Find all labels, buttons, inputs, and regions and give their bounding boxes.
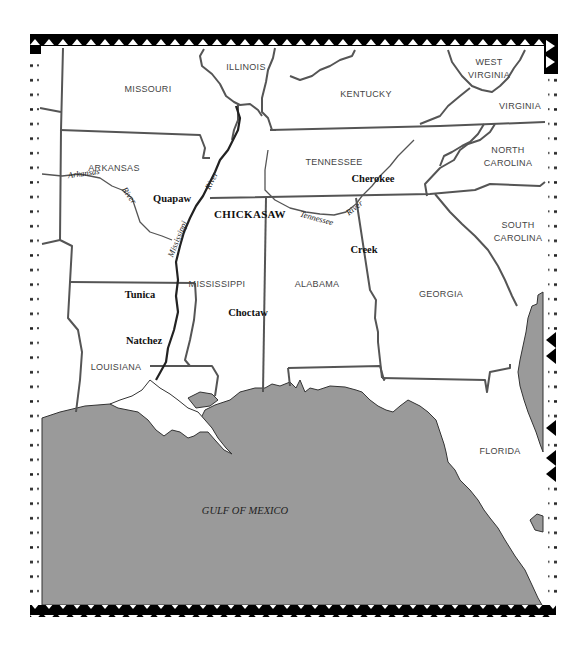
label-missouri: MISSOURI <box>125 84 172 94</box>
map-canvas: MISSOURI ILLINOIS KENTUCKY WEST VIRGINIA… <box>0 0 586 650</box>
label-natchez: Natchez <box>126 335 162 346</box>
label-florida: FLORIDA <box>479 446 520 456</box>
gulf-water <box>42 292 543 605</box>
label-georgia: GEORGIA <box>419 289 463 299</box>
label-mississippi-river-2: River <box>202 170 220 192</box>
label-tunica: Tunica <box>125 289 156 300</box>
label-north-carolina-1: NORTH <box>491 145 524 155</box>
bottom-border-band <box>30 605 556 617</box>
label-louisiana: LOUISIANA <box>91 362 142 372</box>
label-west-virginia-1: WEST <box>475 57 502 67</box>
label-south-carolina-1: SOUTH <box>502 220 535 230</box>
label-alabama: ALABAMA <box>295 279 340 289</box>
label-south-carolina-2: CAROLINA <box>494 233 542 243</box>
rivers <box>42 106 414 380</box>
label-north-carolina-2: CAROLINA <box>484 158 532 168</box>
label-tennessee-river-1: Tennessee <box>299 209 335 228</box>
state-borders <box>40 48 545 412</box>
label-arkansas-river-2: River <box>120 184 140 206</box>
label-west-virginia-2: VIRGINIA <box>468 70 510 80</box>
historical-map: MISSOURI ILLINOIS KENTUCKY WEST VIRGINIA… <box>0 0 586 650</box>
label-illinois: ILLINOIS <box>226 62 265 72</box>
tribe-labels: Quapaw CHICKASAW Cherokee Creek Tunica C… <box>125 173 395 346</box>
label-cherokee: Cherokee <box>352 173 395 184</box>
label-virginia: VIRGINIA <box>499 101 541 111</box>
label-choctaw: Choctaw <box>228 307 268 318</box>
label-kentucky: KENTUCKY <box>340 89 391 99</box>
label-arkansas-river-1: Arkansas <box>66 166 100 181</box>
left-dotted-border <box>28 56 42 604</box>
label-tennessee: TENNESSEE <box>305 157 362 167</box>
label-gulf-of-mexico: GULF OF MEXICO <box>202 505 289 516</box>
top-border-band <box>30 34 556 46</box>
label-creek: Creek <box>350 244 377 255</box>
label-chickasaw: CHICKASAW <box>214 208 286 220</box>
label-mississippi: MISSISSIPPI <box>189 279 246 289</box>
label-tennessee-river-2: River <box>343 198 365 218</box>
label-quapaw: Quapaw <box>153 193 191 204</box>
